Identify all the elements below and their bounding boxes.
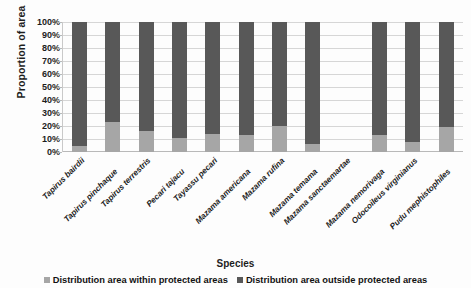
y-axis-tick-label: 80% xyxy=(27,44,60,53)
bar-segment-outside-protected[interactable] xyxy=(172,22,187,138)
bar-segment-within-protected[interactable] xyxy=(305,144,320,152)
y-axis-tick-mark xyxy=(57,113,62,114)
bar-segment-outside-protected[interactable] xyxy=(405,22,420,142)
bar-group[interactable] xyxy=(230,22,263,152)
legend-label: Distribution area within protected areas xyxy=(53,275,228,285)
bar-segment-outside-protected[interactable] xyxy=(439,22,454,127)
bar-segment-within-protected[interactable] xyxy=(72,146,87,153)
chart-legend: Distribution area within protected areas… xyxy=(0,275,471,285)
bar-segment-within-protected[interactable] xyxy=(105,122,120,152)
y-axis-tick-label: 40% xyxy=(27,96,60,105)
y-axis-tick-mark xyxy=(57,22,62,23)
x-axis-tick-labels: Tapirus bairdiiTapirus pinchaqueTapirus … xyxy=(63,153,463,238)
bar-segment-within-protected[interactable] xyxy=(139,131,154,152)
y-axis-tick-mark xyxy=(57,139,62,140)
y-axis-tick-label: 100% xyxy=(27,18,60,27)
y-axis-tick-label: 0% xyxy=(27,148,60,157)
bar-stack[interactable] xyxy=(105,22,120,152)
bar-segment-outside-protected[interactable] xyxy=(139,22,154,131)
bar-stack[interactable] xyxy=(205,22,220,152)
y-axis-tick-mark xyxy=(57,35,62,36)
y-axis-tick-label: 70% xyxy=(27,57,60,66)
bar-group[interactable] xyxy=(330,22,363,152)
y-axis-tick-labels: 100%90%80%70%60%50%40%30%20%10%0% xyxy=(27,16,60,158)
y-axis-tick-label: 50% xyxy=(27,83,60,92)
y-axis-tick-mark xyxy=(57,100,62,101)
legend-item[interactable]: Distribution area within protected areas xyxy=(44,275,228,285)
bar-segment-outside-protected[interactable] xyxy=(305,22,320,144)
bar-stack[interactable] xyxy=(372,22,387,152)
y-axis-tick-mark xyxy=(57,126,62,127)
bar-group[interactable] xyxy=(363,22,396,152)
bar-segment-outside-protected[interactable] xyxy=(205,22,220,134)
y-axis-tick-label: 10% xyxy=(27,135,60,144)
legend-item[interactable]: Distribution area outside protected area… xyxy=(237,275,427,285)
bar-segment-outside-protected[interactable] xyxy=(105,22,120,122)
y-axis-tick-label: 60% xyxy=(27,70,60,79)
bar-stack[interactable] xyxy=(139,22,154,152)
bar-group[interactable] xyxy=(63,22,96,152)
bar-segment-outside-protected[interactable] xyxy=(372,22,387,135)
bar-segment-within-protected[interactable] xyxy=(405,142,420,152)
bar-group[interactable] xyxy=(96,22,129,152)
y-axis-tick-label: 30% xyxy=(27,109,60,118)
bar-segment-within-protected[interactable] xyxy=(372,135,387,152)
y-axis-tick-label: 90% xyxy=(27,31,60,40)
bar-group[interactable] xyxy=(430,22,463,152)
bar-segment-outside-protected[interactable] xyxy=(72,22,87,146)
y-axis-title: Proportion of area xyxy=(15,0,27,117)
legend-label: Distribution area outside protected area… xyxy=(246,275,427,285)
bar-stack[interactable] xyxy=(405,22,420,152)
y-axis-tick-mark xyxy=(57,152,62,153)
bar-segment-outside-protected[interactable] xyxy=(239,22,254,135)
legend-swatch-icon xyxy=(237,277,243,283)
bar-stack[interactable] xyxy=(305,22,320,152)
x-axis-tick-label: Tapirus bairdii xyxy=(41,156,87,202)
bar-group[interactable] xyxy=(130,22,163,152)
bar-segment-within-protected[interactable] xyxy=(239,135,254,152)
y-axis-tick-mark xyxy=(57,74,62,75)
bar-segment-within-protected[interactable] xyxy=(272,126,287,152)
bars-layer xyxy=(63,22,463,152)
bar-stack[interactable] xyxy=(272,22,287,152)
bar-group[interactable] xyxy=(396,22,429,152)
bar-group[interactable] xyxy=(163,22,196,152)
bar-group[interactable] xyxy=(263,22,296,152)
bar-stack[interactable] xyxy=(172,22,187,152)
x-axis-tick-slot: Pudu mephistophiles xyxy=(430,153,463,238)
bar-group[interactable] xyxy=(296,22,329,152)
x-axis-title: Species xyxy=(0,258,471,269)
bar-stack[interactable] xyxy=(239,22,254,152)
bar-stack[interactable] xyxy=(72,22,87,152)
bar-segment-within-protected[interactable] xyxy=(205,134,220,152)
bar-segment-outside-protected[interactable] xyxy=(272,22,287,126)
legend-swatch-icon xyxy=(44,277,50,283)
y-axis-tick-mark xyxy=(57,87,62,88)
y-axis-tick-mark xyxy=(57,61,62,62)
y-axis-tick-label: 20% xyxy=(27,122,60,131)
bar-segment-within-protected[interactable] xyxy=(172,138,187,152)
y-axis-tick-mark xyxy=(57,48,62,49)
bar-group[interactable] xyxy=(196,22,229,152)
bar-stack[interactable] xyxy=(439,22,454,152)
stacked-bar-chart: Proportion of area 100%90%80%70%60%50%40… xyxy=(0,0,471,288)
bar-segment-within-protected[interactable] xyxy=(439,127,454,152)
